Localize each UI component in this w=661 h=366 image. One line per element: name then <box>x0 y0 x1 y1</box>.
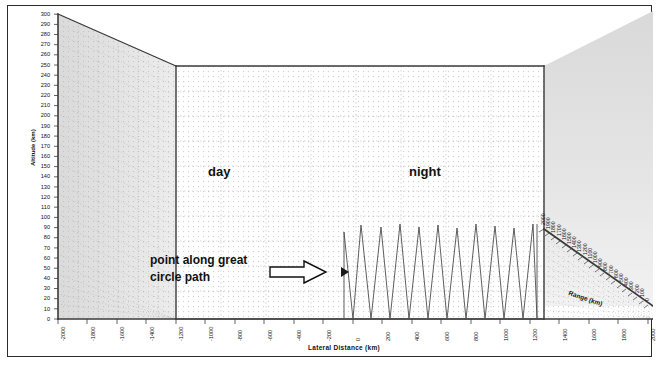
x-tick-label: 1800 <box>621 329 627 341</box>
y-tick-label: 50 <box>28 265 50 271</box>
x-tick-label: -1600 <box>119 327 125 341</box>
x-tick-label: -1800 <box>90 327 96 341</box>
y-tick-label: 30 <box>28 285 50 291</box>
x-axis-title: Lateral Distance (km) <box>308 344 380 351</box>
z-tick-label: 0 <box>644 298 650 301</box>
y-tick-label: 100 <box>28 214 50 220</box>
y-tick-label: 60 <box>28 255 50 261</box>
y-tick-label: 210 <box>28 102 50 108</box>
figure-frame: day night point along great circle path … <box>7 5 652 357</box>
z-tick-label: 100 <box>639 289 645 298</box>
x-tick-label: 800 <box>473 332 479 341</box>
y-tick-label: 190 <box>28 123 50 129</box>
y-tick-label: 170 <box>28 143 50 149</box>
y-tick-label: 120 <box>28 194 50 200</box>
x-tick-label: 0 <box>355 338 361 341</box>
x-tick-label: -1400 <box>149 327 155 341</box>
y-tick-label: 40 <box>28 275 50 281</box>
x-tick-label: -2000 <box>60 327 66 341</box>
x-tick-label: -600 <box>267 330 273 341</box>
plot-area: day night point along great circle path … <box>8 6 653 358</box>
y-tick-label: 0 <box>28 316 50 322</box>
x-tick-label: -1000 <box>208 327 214 341</box>
y-tick-label: 20 <box>28 295 50 301</box>
y-tick-label: 230 <box>28 82 50 88</box>
y-tick-label: 270 <box>28 41 50 47</box>
x-tick-label: 400 <box>414 332 420 341</box>
y-tick-label: 70 <box>28 245 50 251</box>
y-tick-label: 10 <box>28 306 50 312</box>
plot-3d-scene <box>8 6 653 358</box>
y-tick-label: 140 <box>28 173 50 179</box>
x-tick-label: 1200 <box>532 329 538 341</box>
x-tick-label: 2000 <box>650 329 656 341</box>
y-tick-label: 290 <box>28 21 50 27</box>
annotation-text-line2: circle path <box>150 270 210 284</box>
annotation-text-line1: point along great <box>150 253 247 267</box>
y-tick-label: 180 <box>28 133 50 139</box>
y-tick-label: 130 <box>28 184 50 190</box>
region-label-night: night <box>409 164 441 179</box>
x-tick-label: -1200 <box>178 327 184 341</box>
y-tick-label: 260 <box>28 51 50 57</box>
x-tick-label: -400 <box>296 330 302 341</box>
x-tick-label: 600 <box>444 332 450 341</box>
x-tick-label: 1600 <box>591 329 597 341</box>
screenshot-root: day night point along great circle path … <box>0 0 661 366</box>
x-tick-label: -200 <box>326 330 332 341</box>
y-tick-label: 110 <box>28 204 50 210</box>
y-tick-label: 80 <box>28 234 50 240</box>
y-tick-label: 250 <box>28 62 50 68</box>
region-label-day: day <box>208 164 230 179</box>
x-tick-label: 200 <box>385 332 391 341</box>
y-tick-label: 220 <box>28 92 50 98</box>
y-tick-label: 300 <box>28 11 50 17</box>
y-tick-label: 240 <box>28 72 50 78</box>
y-tick-label: 160 <box>28 153 50 159</box>
y-tick-label: 150 <box>28 163 50 169</box>
y-tick-label: 280 <box>28 31 50 37</box>
y-tick-label: 200 <box>28 112 50 118</box>
y-tick-label: 90 <box>28 224 50 230</box>
x-tick-label: 1000 <box>503 329 509 341</box>
x-tick-label: 1400 <box>562 329 568 341</box>
x-tick-label: -800 <box>237 330 243 341</box>
